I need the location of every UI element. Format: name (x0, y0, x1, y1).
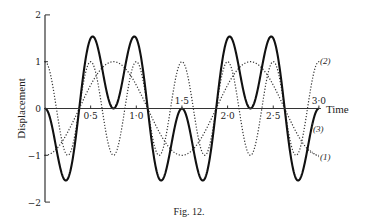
figure: 210−1−20·51·01·52·02·53·0 Time Displacem… (0, 0, 367, 224)
x-tick-label: 1·5 (175, 96, 190, 106)
y-axis-label: Displacement (15, 78, 27, 138)
series-label: (3) (313, 124, 324, 134)
x-tick-label: 3·0 (312, 96, 327, 106)
y-tick-label: 1 (35, 57, 41, 67)
x-tick-label: 2·0 (220, 111, 235, 121)
y-tick-label: −1 (28, 151, 41, 161)
series-label: (1) (320, 152, 331, 162)
y-tick-label: 0 (35, 104, 41, 114)
axes-layer (45, 15, 321, 202)
figure-caption: Fig. 12. (174, 206, 205, 217)
series-label: (2) (320, 56, 331, 66)
x-axis-label: Time (326, 103, 349, 115)
x-tick-label: 2·5 (266, 111, 281, 121)
x-tick-label: 1·0 (129, 111, 144, 121)
x-tick-label: 0·5 (83, 111, 98, 121)
y-tick-label: 2 (35, 10, 41, 20)
y-tick-label: −2 (28, 198, 41, 208)
